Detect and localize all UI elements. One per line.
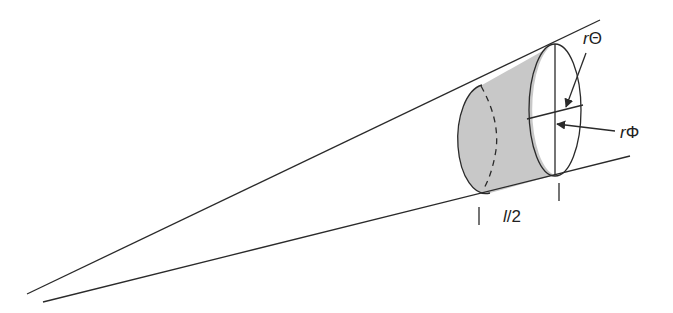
r-theta-symbol: Θ (589, 29, 602, 48)
r-theta-label: rΘ (583, 29, 602, 48)
half-length-rest: /2 (507, 207, 521, 226)
r-phi-label: rΦ (620, 123, 639, 142)
half-length-label: l/2 (503, 207, 521, 226)
r-theta-arrow (566, 53, 586, 107)
r-phi-arrow (557, 124, 615, 131)
r-phi-symbol: Φ (626, 123, 640, 142)
cone-cylinder-diagram: rΘ rΦ l/2 (0, 0, 673, 313)
shaded-cylinder-surface (458, 44, 555, 194)
cone-lower-line (43, 156, 630, 302)
